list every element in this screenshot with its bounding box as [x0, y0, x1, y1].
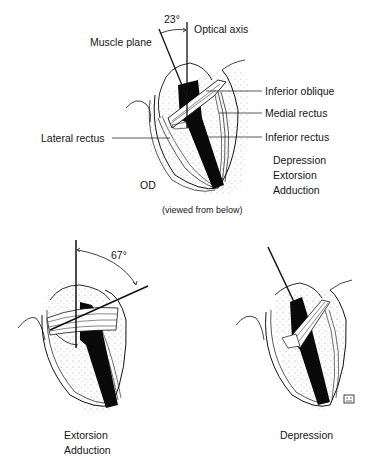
bottom-right-eye-drawing — [236, 247, 354, 410]
bottom-left-eye-drawing — [18, 240, 148, 414]
muscle-plane-label: Muscle plane — [90, 36, 152, 48]
action-adduction: Adduction — [64, 443, 111, 458]
action-extorsion: Extorsion — [64, 428, 111, 443]
eye-label-od: OD — [140, 179, 156, 191]
angle-label-67: 67° — [111, 249, 127, 261]
bottom-left-actions-list: Extorsion Adduction — [64, 428, 111, 458]
inferior-oblique-label: Inferior oblique — [265, 85, 334, 97]
inferior-rectus-label: Inferior rectus — [265, 131, 329, 143]
view-note: (viewed from below) — [162, 204, 243, 216]
lateral-rectus-label: Lateral rectus — [41, 132, 105, 144]
eye-muscle-diagram — [0, 0, 379, 471]
top-actions-list: Depression Extorsion Adduction — [273, 153, 326, 198]
action-depression: Depression — [280, 428, 333, 443]
action-depression: Depression — [273, 153, 326, 168]
stamp-icon — [344, 395, 354, 403]
action-adduction: Adduction — [273, 183, 326, 198]
top-eye-drawing — [112, 22, 262, 196]
action-extorsion: Extorsion — [273, 168, 326, 183]
optical-axis-label: Optical axis — [194, 23, 248, 35]
angle-label-23: 23° — [164, 13, 180, 25]
medial-rectus-label: Medial rectus — [265, 107, 327, 119]
